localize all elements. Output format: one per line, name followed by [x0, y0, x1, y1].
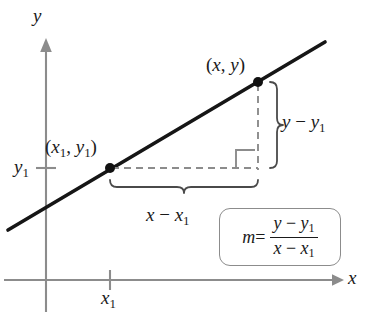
point2-paren-close: )	[239, 54, 245, 75]
formula-equals: =	[255, 227, 265, 248]
point-x-y-label: (x, y)	[206, 55, 245, 74]
point2-y: y	[230, 54, 238, 75]
run-label-minus: −	[154, 204, 174, 225]
formula-denominator: x − x1	[270, 237, 317, 260]
formula-numerator-minus: −	[281, 213, 300, 233]
rise-label-tail: y	[311, 111, 319, 132]
formula-denominator-tail-subscript: 1	[309, 246, 315, 260]
rise-label-tail-subscript: 1	[319, 120, 325, 135]
rise-label-minus: −	[290, 111, 310, 132]
point-x1-y1-label: (x1, y1)	[45, 137, 97, 160]
point1-paren-close: )	[91, 136, 97, 157]
run-brace-icon	[110, 180, 258, 193]
y1-tick-label-subscript: 1	[22, 165, 28, 180]
run-label: x − x1	[146, 205, 190, 228]
run-label-tail-subscript: 1	[183, 213, 189, 228]
axes-group	[4, 38, 344, 312]
point1-y: y	[76, 136, 84, 157]
formula-numerator-tail-subscript: 1	[309, 222, 315, 236]
slope-formula-box: m = y − y1 x − x1	[219, 208, 341, 266]
point2-comma: ,	[221, 54, 231, 75]
point1-comma: ,	[66, 136, 76, 157]
diagram-canvas	[0, 0, 365, 322]
y1-tick-label: y1	[14, 157, 29, 180]
slope-formula: m = y − y1 x − x1	[220, 209, 340, 265]
x1-tick-label: x1	[101, 288, 116, 311]
rise-label: y − y1	[282, 112, 326, 135]
slope-diagram-figure: y x y1 x1 (x1, y1) (x, y) y − y1 x − x1 …	[0, 0, 365, 322]
run-label-tail: x	[175, 204, 183, 225]
formula-numerator-tail: y	[301, 213, 309, 233]
formula-numerator: y − y1	[270, 214, 317, 236]
x1-tick-label-subscript: 1	[109, 296, 115, 311]
formula-denominator-tail: x	[301, 238, 309, 258]
y-axis-arrow-icon	[40, 38, 52, 52]
point-x-y-dot	[253, 77, 263, 87]
point-x1-y1-dot	[105, 163, 115, 173]
right-angle-marker-icon	[236, 150, 255, 168]
x-axis-label: x	[348, 268, 356, 287]
y-axis-label: y	[33, 6, 41, 25]
point1-x: x	[51, 136, 59, 157]
formula-lhs: m	[242, 227, 255, 248]
formula-fraction: y − y1 x − x1	[270, 214, 317, 260]
x-axis-arrow-icon	[332, 274, 344, 286]
point2-x: x	[212, 54, 220, 75]
formula-denominator-minus: −	[281, 238, 300, 258]
